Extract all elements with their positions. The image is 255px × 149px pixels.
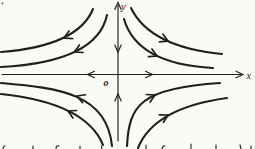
axis-arrowheads: [88, 3, 244, 102]
cropped-text-mark: [56, 146, 59, 149]
cropped-text-mark: [3, 146, 5, 149]
trajectory-upper-right-outer: [131, 8, 222, 54]
y-axis-label: y: [120, 0, 126, 12]
saddle-phase-portrait-canvas: y x o: [0, 0, 255, 149]
trajectory-lower-left-inner: [1, 83, 112, 146]
cropped-text-mark: [102, 146, 103, 149]
x-axis-label: x: [246, 70, 252, 81]
cropped-text-mark: [162, 146, 165, 149]
flow-arrowheads: [62, 31, 170, 122]
trajectory-upper-right-inner: [124, 19, 213, 68]
trajectory-curves: [1, 8, 227, 148]
phase-portrait-figure: y x o: [0, 0, 255, 149]
coordinate-axes: [2, 5, 241, 141]
cropped-text-mark: [240, 145, 241, 149]
ink-speck: [2, 3, 4, 5]
origin-label: o: [104, 77, 109, 88]
trajectory-lower-right-inner: [127, 83, 220, 146]
trajectory-lower-right-outer: [138, 98, 227, 148]
